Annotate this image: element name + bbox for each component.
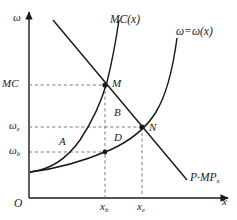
region-d-label: D [114,132,122,143]
x-tick-x-b: xb [100,201,108,212]
point-m-label: M [112,78,121,89]
region-a-label: A [59,136,66,147]
y-tick-omega-e-sub: e [17,125,20,132]
vmp-line [53,20,187,180]
y-tick-omega-b-text: ω [9,144,17,156]
y-tick-omega-b-sub: b [17,150,20,157]
vmp-line-label: P·MPx [190,172,220,184]
origin-label: O [14,198,22,210]
vmp-line-label-text: P·MP [190,171,217,183]
point-n-marker [139,124,144,129]
mc-curve [30,20,119,172]
point-b-marker [103,150,108,155]
y-tick-omega-e-text: ω [9,119,17,131]
region-b-label: B [114,107,121,118]
vmp-line-label-sub: x [217,177,220,185]
y-tick-mc-text: MC [2,77,19,89]
x-tick-x-b-sub: b [105,206,108,213]
x-tick-x-e-sub: e [142,206,145,213]
point-n-label: N [149,122,156,133]
x-tick-x-e: xe [137,201,145,212]
y-tick-omega-e: ωe [9,120,20,131]
economics-diagram: ω x O MC ωe ωb xb xe MC(x) ω=ω(x) P·MPx … [0,0,237,220]
y-tick-omega-b: ωb [9,145,20,156]
wage-curve-label: ω=ω(x) [176,26,213,38]
point-m-marker [102,82,107,87]
y-tick-mc: MC [2,78,19,89]
x-axis-label: x [222,196,227,207]
y-axis-label: ω [13,12,21,23]
mc-curve-label: MC(x) [110,14,140,26]
